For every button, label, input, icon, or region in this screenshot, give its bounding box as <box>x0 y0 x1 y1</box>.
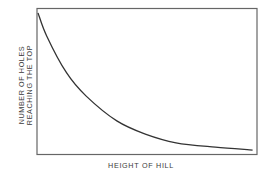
decay-curve <box>38 13 253 150</box>
y-axis-label: NUMBER OF HOLES REACHING THE TOP <box>18 45 34 125</box>
y-axis-label-line-2: REACHING THE TOP <box>26 45 34 125</box>
x-axis-label: HEIGHT OF HILL <box>108 161 174 170</box>
plot-frame <box>37 9 257 155</box>
chart <box>0 0 270 173</box>
